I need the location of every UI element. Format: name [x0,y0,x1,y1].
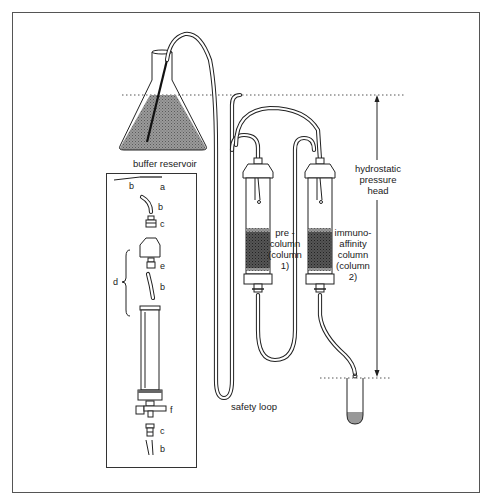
pressure-head-arrow [375,95,380,377]
svg-text:e: e [160,261,165,271]
immunoaffinity-column [305,158,335,292]
immunoaffinity-label: immuno- affinity column (column 2) [335,227,372,282]
svg-text:2): 2) [349,271,357,282]
svg-text:hydrostatic: hydrostatic [355,163,401,174]
svg-text:head: head [367,185,388,196]
safety-loop-label: safety loop [231,401,277,412]
svg-text:immuno-: immuno- [335,227,372,238]
svg-text:b: b [129,181,134,191]
svg-text:1): 1) [281,260,289,271]
precolumn [243,158,273,292]
svg-text:a: a [160,182,165,192]
svg-text:affinity: affinity [339,238,367,249]
svg-text:(column: (column [268,249,302,260]
svg-text:d: d [113,277,118,287]
svg-text:column: column [338,249,369,260]
buffer-reservoir-flask [120,50,207,150]
outlet-tube [320,295,355,374]
svg-text:column: column [270,238,301,249]
svg-text:c: c [160,219,165,229]
svg-text:c: c [160,426,165,436]
buffer-reservoir-label: buffer reservoir [133,158,197,169]
svg-text:b: b [160,444,165,454]
svg-text:pre -: pre - [275,227,295,238]
collection-tube [347,374,363,424]
svg-text:b: b [158,202,163,212]
svg-text:b: b [160,282,165,292]
svg-text:(column: (column [336,260,370,271]
chromatography-apparatus-diagram: buffer reservoir pre - column (column 1)… [0,0,489,498]
column-components-inset: b a b c e b d f [107,174,197,468]
svg-text:pressure: pressure [360,174,397,185]
pressure-head-label: hydrostatic pressure head [354,162,401,198]
